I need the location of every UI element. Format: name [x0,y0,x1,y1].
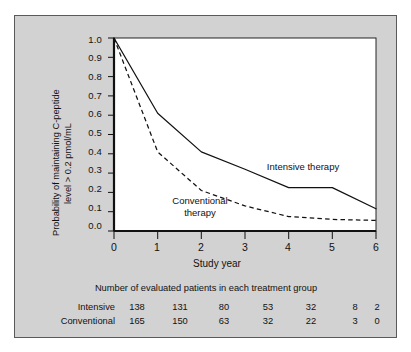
table-row-label-intensive: Intensive [29,303,115,312]
plot-background [114,38,376,231]
table-cell-intensive-4: 32 [298,303,324,312]
table-cell-intensive-2: 80 [211,303,237,312]
figure-inner: Probability of maintaining C-peptide lev… [15,16,396,337]
table-cell-conventional-2: 63 [211,317,237,326]
table-caption: Number of evaluated patients in each tre… [95,284,317,293]
x-tick-6: 6 [367,242,385,253]
table-cell-intensive-3: 53 [255,303,281,312]
table-cell-conventional-3: 32 [255,317,281,326]
x-axis-title: Study year [193,259,241,269]
series-label-conventional-therapy-line2: therapy [184,208,216,218]
x-tick-4: 4 [279,242,297,253]
figure-panel: Probability of maintaining C-peptide lev… [14,15,397,338]
series-label-conventional-therapy-line1: Conventional [172,196,227,206]
table-cell-conventional-4: 22 [298,317,324,326]
table-cell-intensive-0: 138 [124,303,150,312]
table-cell-conventional-0: 165 [124,317,150,326]
x-axis-ticks [114,231,376,239]
x-tick-5: 5 [323,242,341,253]
table-cell-intensive-6: 2 [364,303,390,312]
table-cell-conventional-6: 0 [364,317,390,326]
x-tick-1: 1 [148,242,166,253]
x-tick-0: 0 [105,242,123,253]
x-tick-3: 3 [236,242,254,253]
table-cell-conventional-1: 150 [167,317,193,326]
table-row-label-conventional: Conventional [29,317,115,326]
series-label-intensive-therapy: Intensive therapy [267,162,339,172]
table-cell-intensive-1: 131 [167,303,193,312]
x-tick-2: 2 [192,242,210,253]
